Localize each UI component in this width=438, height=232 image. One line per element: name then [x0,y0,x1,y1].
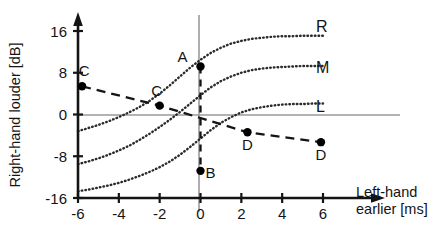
data-point-d-5 [317,138,325,146]
x-tick-label: -2 [153,205,166,222]
data-point-d-4 [243,128,251,136]
x-axis [78,193,385,203]
y-tick-label: -16 [45,190,67,207]
x-axis-title-line1: Left-hand [356,184,417,200]
data-point-b-1 [196,167,204,175]
series-label-l: L [316,98,325,115]
tradeoff-lines [82,66,321,170]
y-axis-title: Right-hand louder [dB] [7,42,23,187]
x-tick-label: 6 [319,205,327,222]
y-tick-label: 0 [59,106,67,123]
series-label-r: R [316,18,328,35]
chart-svg: -16-80816 -6-4-20246 ABCCDD R M L Left-h… [0,0,438,232]
x-tick-label: 2 [237,205,245,222]
point-label-d-4: D [242,136,253,153]
x-tick-label: 0 [196,205,204,222]
data-point-c-2 [78,82,86,90]
x-tick-label: -4 [112,205,125,222]
point-label-c-2: C [79,62,90,79]
point-label-a-0: A [177,48,187,65]
y-axis [73,12,83,198]
point-label-c-3: C [151,82,162,99]
y-tick-label: 8 [59,64,67,81]
point-label-b-1: B [205,164,215,181]
series-label-m: M [316,59,329,76]
y-tick-label: -8 [54,148,67,165]
x-tick-label: -6 [71,205,84,222]
y-tick-label: 16 [50,23,67,40]
x-tick-label: 4 [278,205,286,222]
point-label-d-5: D [316,146,327,163]
data-point-c-3 [155,101,163,109]
data-point-a-0 [196,62,204,70]
chart-figure: -16-80816 -6-4-20246 ABCCDD R M L Left-h… [0,0,438,232]
x-axis-title-line2: earlier [ms] [356,201,428,217]
